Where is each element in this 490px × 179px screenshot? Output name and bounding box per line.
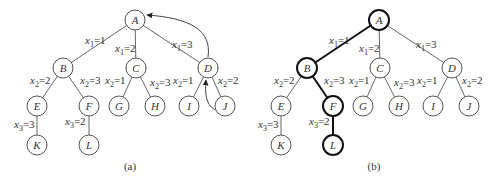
node-d: D bbox=[198, 58, 218, 78]
svg-text:F: F bbox=[329, 100, 337, 112]
edge-label-e-k: x3=3 bbox=[13, 118, 35, 133]
edge-label-e-k: x3=3 bbox=[257, 118, 279, 133]
svg-text:D: D bbox=[203, 62, 212, 74]
node-g: G bbox=[109, 96, 129, 116]
node-l-highlighted: L bbox=[323, 135, 343, 155]
edge-label-b-f: x2=3 bbox=[323, 74, 345, 89]
node-c: C bbox=[370, 58, 390, 78]
edge-label-d-i: x2=1 bbox=[172, 74, 194, 89]
svg-text:D: D bbox=[447, 62, 456, 74]
edge-label-c-g: x2=1 bbox=[104, 74, 126, 89]
node-k: K bbox=[271, 135, 291, 155]
node-k: K bbox=[27, 135, 47, 155]
node-d: D bbox=[442, 58, 462, 78]
svg-text:E: E bbox=[33, 100, 41, 112]
node-l: L bbox=[79, 135, 99, 155]
svg-text:B: B bbox=[304, 62, 311, 74]
svg-text:K: K bbox=[276, 139, 285, 151]
svg-text:C: C bbox=[132, 62, 140, 74]
node-j: J bbox=[215, 96, 235, 116]
node-f: F bbox=[79, 96, 99, 116]
node-e: E bbox=[271, 96, 291, 116]
svg-text:G: G bbox=[115, 100, 123, 112]
node-g: G bbox=[353, 96, 373, 116]
svg-text:K: K bbox=[32, 139, 41, 151]
svg-text:C: C bbox=[376, 62, 384, 74]
svg-text:B: B bbox=[60, 62, 67, 74]
edge-label-b-e: x2=2 bbox=[29, 74, 51, 89]
svg-text:L: L bbox=[85, 139, 92, 151]
edge-label-d-j: x2=2 bbox=[461, 74, 483, 89]
caption-a: (a) bbox=[124, 160, 137, 173]
svg-text:H: H bbox=[394, 100, 404, 112]
svg-text:A: A bbox=[375, 14, 383, 26]
node-j: J bbox=[459, 96, 479, 116]
edge-label-d-j: x2=2 bbox=[217, 74, 239, 89]
edge-label-d-i: x2=1 bbox=[416, 74, 438, 89]
svg-text:G: G bbox=[359, 100, 367, 112]
tree-diagram-b: x1=1 x1=2 x1=3 x2=2 x2=3 x2=1 x2=3 x2=1 … bbox=[257, 10, 483, 173]
svg-text:E: E bbox=[277, 100, 285, 112]
node-b: B bbox=[53, 58, 73, 78]
edge-label-c-h: x2=3 bbox=[149, 76, 171, 91]
edge-label-a-c: x1=2 bbox=[358, 42, 380, 57]
search-tree-figure: x1=1 x1=2 x1=3 x2=2 x2=3 x2=1 x2=3 x2=1 … bbox=[0, 0, 490, 179]
svg-text:F: F bbox=[85, 100, 93, 112]
node-h: H bbox=[389, 96, 409, 116]
node-a-highlighted: A bbox=[369, 10, 389, 30]
node-c: C bbox=[126, 58, 146, 78]
edge-label-c-h: x2=3 bbox=[393, 76, 415, 91]
node-i: I bbox=[179, 96, 199, 116]
edge-label-c-g: x2=1 bbox=[348, 74, 370, 89]
backtrack-arrow-j-to-d bbox=[206, 80, 215, 110]
edge-label-b-e: x2=2 bbox=[273, 74, 295, 89]
svg-text:L: L bbox=[329, 139, 336, 151]
node-a: A bbox=[125, 10, 145, 30]
node-h: H bbox=[145, 96, 165, 116]
node-f-highlighted: F bbox=[323, 96, 343, 116]
tree-diagram-a: x1=1 x1=2 x1=3 x2=2 x2=3 x2=1 x2=3 x2=1 … bbox=[13, 10, 239, 173]
node-e: E bbox=[27, 96, 47, 116]
svg-text:A: A bbox=[131, 14, 139, 26]
caption-b: (b) bbox=[368, 160, 381, 173]
svg-text:H: H bbox=[150, 100, 160, 112]
edge-label-a-c: x1=2 bbox=[114, 42, 136, 57]
node-b-highlighted: B bbox=[297, 58, 317, 78]
edge-label-f-l: x3=2 bbox=[308, 115, 330, 130]
edge-label-f-l: x3=2 bbox=[64, 115, 86, 130]
edge-label-b-f: x2=3 bbox=[79, 74, 101, 89]
node-i: I bbox=[423, 96, 443, 116]
